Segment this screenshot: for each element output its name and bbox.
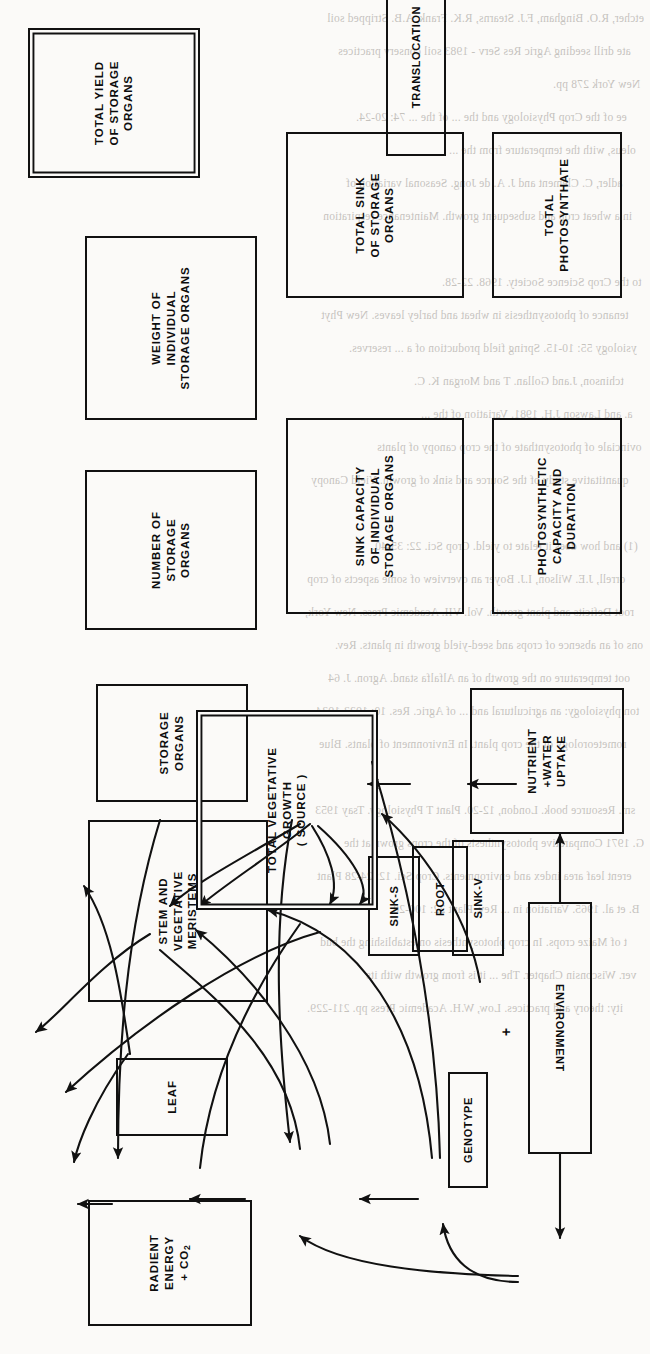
node-environment: ENVIRONMENT bbox=[528, 902, 592, 1154]
node-label-line: OF STORAGE bbox=[368, 173, 383, 258]
node-label-line: PHOTOSYNTHATE bbox=[557, 158, 572, 272]
node-total-vegetative-growth: TOTAL VEGETATIVE GROWTH ( SOURCE ) bbox=[196, 710, 378, 910]
node-label-line: SINK-S bbox=[387, 886, 401, 927]
node-label-line: ROOT bbox=[433, 882, 447, 916]
node-label-line: ORGANS bbox=[178, 522, 193, 578]
node-label-line: OF INDIVIDUAL bbox=[368, 468, 383, 565]
node-label-line: ORGANS bbox=[172, 715, 187, 771]
node-label-line: CAPACITY AND bbox=[550, 468, 565, 564]
node-label-line: LEAF bbox=[165, 1080, 180, 1114]
node-label-line: SINK-V bbox=[471, 878, 485, 919]
node-label-line: DURATION bbox=[564, 482, 579, 549]
node-label-line: NUTRIENT bbox=[525, 728, 540, 793]
node-label-line: STORAGE bbox=[157, 712, 172, 775]
node-label-line: NUMBER OF bbox=[149, 511, 164, 589]
node-total-sink-of-storage-organs: TOTAL SINK OF STORAGE ORGANS bbox=[286, 132, 464, 298]
scanned-page: etcher, R.O. Bingham, F.J. Stearns, R.K.… bbox=[0, 0, 650, 1354]
node-radiant-energy-co2: RADIENT ENERGY + CO2 bbox=[88, 1200, 252, 1326]
node-label-line: TOTAL bbox=[542, 194, 557, 236]
node-label-line: RADIENT bbox=[147, 1234, 162, 1291]
node-label-line: VEGETATIVE bbox=[171, 871, 186, 951]
node-label-line: GENOTYPE bbox=[461, 1097, 475, 1163]
node-label-line: SINK CAPACITY bbox=[353, 466, 368, 566]
node-label-line: WEIGHT OF bbox=[149, 291, 164, 364]
node-label-line: UPTAKE bbox=[554, 735, 569, 787]
node-label-line: ( SOURCE ) bbox=[294, 774, 309, 846]
node-leaf: LEAF bbox=[116, 1058, 228, 1136]
node-label-line: TRANSLOCATION bbox=[409, 6, 423, 108]
node-root: ROOT bbox=[412, 846, 468, 952]
node-sink-capacity-of-individual-storage-organs: SINK CAPACITY OF INDIVIDUAL STORAGE ORGA… bbox=[286, 418, 464, 614]
node-number-of-storage-organs: NUMBER OF STORAGE ORGANS bbox=[85, 470, 257, 630]
node-label-line: STEM AND bbox=[156, 878, 171, 945]
node-label-line: +WATER bbox=[540, 735, 555, 788]
node-total-photosynthate: TOTAL PHOTOSYNTHATE bbox=[492, 132, 622, 298]
node-total-yield: TOTAL YIELD OF STORAGE ORGANS bbox=[28, 28, 200, 178]
node-label-line: ORGANS bbox=[382, 187, 397, 243]
node-translocation-label: TRANSLOCATION bbox=[386, 0, 446, 156]
node-label-line: STORAGE bbox=[164, 519, 179, 582]
node-label-line: TOTAL YIELD bbox=[92, 61, 107, 145]
node-label-line: ENERGY bbox=[162, 1236, 177, 1290]
node-label-line-co2: + CO2 bbox=[177, 1245, 193, 1281]
node-label-line: TOTAL VEGETATIVE bbox=[265, 747, 280, 873]
node-label-line: OF STORAGE bbox=[107, 61, 122, 146]
node-label-line: TOTAL SINK bbox=[353, 177, 368, 254]
node-nutrient-water-uptake: NUTRIENT +WATER UPTAKE bbox=[470, 688, 624, 834]
node-label-line: PHOTOSYNTHETIC bbox=[535, 457, 550, 575]
node-photosynthetic-capacity-and-duration: PHOTOSYNTHETIC CAPACITY AND DURATION bbox=[492, 418, 622, 614]
node-genotype: GENOTYPE bbox=[448, 1072, 488, 1188]
node-label-line: STORAGE ORGANS bbox=[178, 267, 193, 390]
node-label-line: STORAGE ORGANS bbox=[382, 455, 397, 578]
node-label-line: INDIVIDUAL bbox=[164, 291, 179, 366]
node-label-line: ENVIRONMENT bbox=[553, 984, 567, 1072]
node-label-line: GROWTH bbox=[280, 781, 295, 839]
flowchart-canvas: TOTAL YIELD OF STORAGE ORGANS WEIGHT OF … bbox=[0, 0, 650, 1354]
node-label-line: ORGANS bbox=[121, 75, 136, 131]
conn-radiant-to-stem bbox=[300, 1236, 518, 1276]
plus-sign-genotype-environment: + bbox=[498, 1028, 514, 1036]
conn-leaf-to-source-region bbox=[372, 762, 440, 1158]
node-weight-individual-storage-organs: WEIGHT OF INDIVIDUAL STORAGE ORGANS bbox=[85, 236, 257, 420]
